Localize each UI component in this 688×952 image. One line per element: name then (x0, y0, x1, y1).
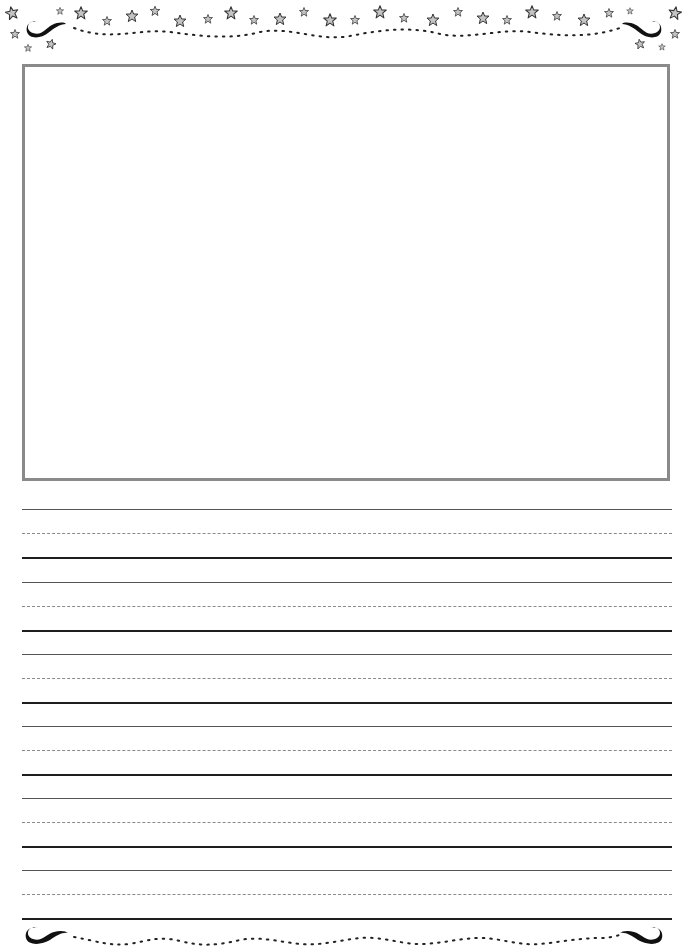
writing-line-top (22, 654, 672, 655)
handwriting-lines (22, 0, 672, 952)
writing-line-midline (22, 750, 672, 751)
writing-line-top (22, 870, 672, 871)
writing-line-top (22, 509, 672, 510)
writing-line-midline (22, 533, 672, 534)
swirl-icon (26, 927, 68, 944)
star-icon (5, 6, 20, 21)
writing-line-top (22, 582, 672, 583)
star-icon (11, 30, 20, 39)
swirl-icon (620, 927, 662, 944)
dotted-wave (74, 935, 620, 945)
writing-line-midline (22, 822, 672, 823)
writing-line-midline (22, 894, 672, 895)
writing-line-top (22, 798, 672, 799)
writing-line-baseline (22, 557, 672, 559)
writing-line-baseline (22, 774, 672, 776)
writing-line-baseline (22, 702, 672, 704)
writing-line-top (22, 726, 672, 727)
writing-line-midline (22, 606, 672, 607)
writing-line-baseline (22, 630, 672, 632)
writing-line-midline (22, 678, 672, 679)
writing-line-baseline (22, 846, 672, 848)
bottom-decorative-border (0, 900, 688, 952)
